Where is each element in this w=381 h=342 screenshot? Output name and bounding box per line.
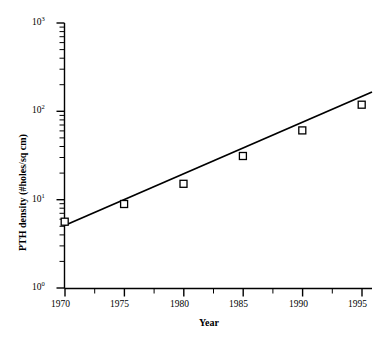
x-tick-label-1970: 1970	[51, 299, 70, 309]
y-tick-label-1000: 103	[32, 15, 45, 27]
x-tick-label-1995: 1995	[348, 299, 367, 309]
y-tick-label-1: 100	[32, 280, 45, 292]
data-point	[61, 218, 68, 225]
data-point	[239, 153, 246, 160]
data-point	[299, 127, 306, 134]
data-point	[180, 180, 187, 187]
x-axis-title: Year	[199, 317, 219, 328]
chart-figure: 103 102 101 100 1970 1975 1980 1985 1990…	[0, 0, 381, 342]
x-tick-label-1975: 1975	[110, 299, 129, 309]
y-tick-label-10: 101	[32, 192, 45, 204]
data-point	[121, 201, 128, 208]
x-tick-label-1980: 1980	[170, 299, 189, 309]
x-tick-label-1985: 1985	[229, 299, 248, 309]
chart-plot-area	[0, 0, 381, 342]
y-tick-label-100: 102	[32, 103, 45, 115]
data-point	[358, 101, 365, 108]
x-tick-label-1990: 1990	[289, 299, 308, 309]
y-axis-title: PTH density (#holes/sq cm)	[17, 134, 28, 251]
